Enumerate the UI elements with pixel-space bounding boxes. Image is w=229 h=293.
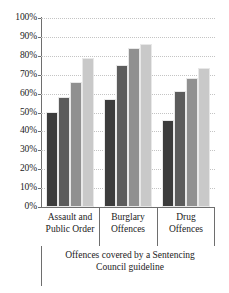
bars-layer — [41, 18, 215, 207]
category-label: Assault andPublic Order — [41, 208, 99, 246]
bar — [82, 58, 94, 207]
category-label-line: Offences — [157, 224, 215, 236]
y-axis-tick-label: 0% — [0, 202, 37, 212]
y-axis-tick-label: 30% — [0, 145, 37, 155]
y-axis-tick-label: 10% — [0, 183, 37, 193]
bar — [186, 78, 198, 207]
x-axis-title-line-2: Council guideline — [96, 262, 164, 272]
bar — [104, 99, 116, 207]
category-separator — [99, 208, 100, 246]
bar-group — [41, 18, 99, 207]
category-label-line: Offences — [99, 224, 157, 236]
category-separator — [157, 208, 158, 246]
y-axis-tick-label: 50% — [0, 108, 37, 118]
y-axis-tick-label: 100% — [0, 13, 37, 23]
bar — [46, 112, 58, 207]
bar — [162, 120, 174, 207]
category-label-line: Drug — [157, 212, 215, 224]
category-label-line: Public Order — [41, 224, 99, 236]
bar — [116, 65, 128, 207]
y-axis-tick-label: 90% — [0, 32, 37, 42]
y-axis-tick-label: 80% — [0, 51, 37, 61]
category-label-line: Assault and — [41, 212, 99, 224]
x-axis-title: Offences covered by a Sentencing Council… — [44, 249, 216, 273]
bar — [198, 68, 210, 207]
bar-group — [99, 18, 157, 207]
bar-group — [157, 18, 215, 207]
bar — [174, 91, 186, 207]
bar — [140, 44, 152, 207]
axis-title-left-rule — [41, 246, 42, 286]
bar — [128, 48, 140, 207]
bar — [58, 97, 70, 207]
bar-chart: Assault andPublic OrderBurglaryOffencesD… — [0, 0, 229, 293]
x-axis-title-line-1: Offences covered by a Sentencing — [65, 250, 195, 260]
category-label: BurglaryOffences — [99, 208, 157, 246]
y-axis-tick-label: 60% — [0, 89, 37, 99]
y-axis-tick-label: 20% — [0, 164, 37, 174]
category-label: DrugOffences — [157, 208, 215, 246]
y-axis-tick-label: 40% — [0, 126, 37, 136]
y-axis-tick-label: 70% — [0, 70, 37, 80]
category-label-line: Burglary — [99, 212, 157, 224]
bar — [70, 82, 82, 207]
category-label-row: Assault andPublic OrderBurglaryOffencesD… — [41, 208, 215, 246]
